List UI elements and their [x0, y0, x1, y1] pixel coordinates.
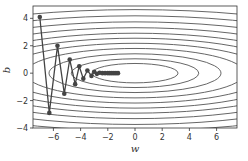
- contour-line: [0, 28, 248, 119]
- contour-line: [0, 10, 248, 137]
- trajectory-point: [73, 82, 78, 87]
- y-tick-label: −2: [16, 97, 28, 106]
- y-tick-label: −4: [16, 124, 28, 133]
- chart: −6−4−20246 −4−2024 w b: [0, 0, 248, 161]
- x-axis: −6−4−20246: [48, 128, 220, 142]
- y-tick-label: 0: [23, 69, 28, 78]
- x-tick-label: −2: [102, 133, 114, 142]
- trajectory-point: [55, 43, 60, 48]
- y-tick-label: 4: [23, 14, 28, 23]
- trajectory-point: [77, 64, 82, 69]
- y-axis-label: b: [1, 67, 12, 73]
- trajectory-point: [81, 76, 86, 81]
- trajectory-point: [62, 91, 67, 96]
- trajectory-point: [47, 111, 52, 116]
- contour-line: [2, 43, 248, 103]
- x-tick-label: 4: [187, 133, 192, 142]
- x-tick-label: −6: [48, 133, 60, 142]
- y-tick-label: 2: [23, 42, 28, 51]
- x-tick-label: 0: [132, 133, 137, 142]
- trajectory-point: [38, 15, 43, 20]
- contour-line: [0, 33, 248, 113]
- trajectory-point: [116, 71, 121, 76]
- trajectory-point: [85, 68, 90, 73]
- x-tick-label: 2: [160, 133, 165, 142]
- contour-line: [49, 54, 221, 93]
- x-tick-label: 6: [214, 133, 219, 142]
- x-tick-label: −4: [75, 133, 87, 142]
- x-axis-label: w: [131, 143, 140, 154]
- contour-line: [25, 48, 244, 97]
- y-axis: −4−2024: [16, 14, 33, 133]
- trajectory-point: [89, 74, 94, 79]
- trajectory-point: [67, 57, 72, 62]
- contour-lines: [0, 10, 248, 137]
